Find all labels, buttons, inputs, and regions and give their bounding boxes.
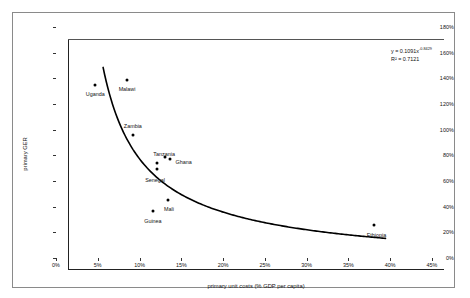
data-point-label: Guinea bbox=[144, 218, 161, 224]
data-point bbox=[94, 83, 97, 86]
data-point-label: Senegal bbox=[145, 177, 165, 183]
y-tick-mark bbox=[53, 104, 56, 105]
y-axis-title: primary GER bbox=[22, 137, 28, 171]
chart-outer-border: primary GER primary unit costs (% GDP pe… bbox=[12, 12, 455, 288]
data-point bbox=[156, 168, 159, 171]
data-point bbox=[168, 158, 171, 161]
x-tick-label: 0% bbox=[52, 262, 60, 268]
trendline-equation-annotation: y = 0.1091x-0.8429 R² = 0.7121 bbox=[391, 45, 432, 63]
data-point bbox=[151, 209, 154, 212]
y-tick-mark bbox=[53, 232, 56, 233]
data-point bbox=[164, 156, 167, 159]
equation-exponent: -0.8429 bbox=[419, 47, 432, 51]
data-point bbox=[166, 199, 169, 202]
x-axis-title: primary unit costs (% GDP per capita) bbox=[207, 283, 304, 289]
r-squared-line: R² = 0.7121 bbox=[391, 55, 432, 63]
data-point bbox=[156, 162, 159, 165]
data-point-label: Zambia bbox=[124, 123, 142, 129]
data-point bbox=[372, 223, 375, 226]
data-point-label: Ghana bbox=[176, 159, 192, 165]
data-point-label: Uganda bbox=[86, 91, 105, 97]
data-point bbox=[131, 133, 134, 136]
y-tick-mark bbox=[53, 155, 56, 156]
y-tick-label: 180% bbox=[415, 24, 454, 30]
chart-figure: primary GER primary unit costs (% GDP pe… bbox=[0, 0, 470, 298]
y-tick-mark bbox=[53, 130, 56, 131]
equation-line: y = 0.1091x-0.8429 bbox=[391, 45, 432, 55]
y-tick-mark bbox=[53, 53, 56, 54]
data-point-label: Mali bbox=[164, 206, 174, 212]
data-point-label: Malawi bbox=[119, 86, 136, 92]
equation-text: y = 0.1091x bbox=[391, 48, 419, 54]
y-tick-mark bbox=[53, 78, 56, 79]
trendline bbox=[68, 39, 444, 270]
x-tick-mark bbox=[56, 258, 57, 261]
data-point-label: Ethiopia bbox=[367, 232, 386, 238]
y-tick-mark bbox=[53, 207, 56, 208]
y-tick-mark bbox=[53, 181, 56, 182]
data-point bbox=[126, 78, 129, 81]
y-tick-mark bbox=[53, 27, 56, 28]
